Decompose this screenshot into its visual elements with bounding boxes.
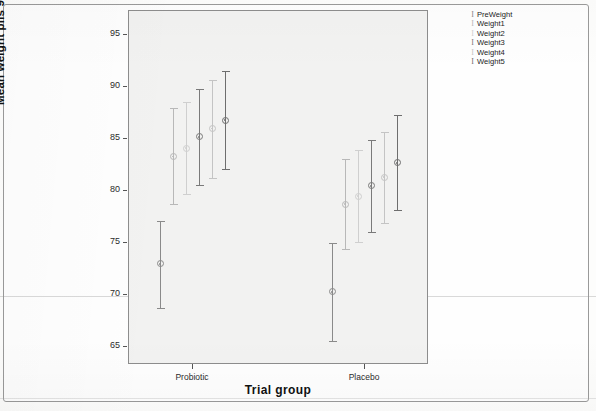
legend-error-bar-icon: I bbox=[468, 19, 477, 28]
legend-error-bar-icon: I bbox=[468, 48, 477, 57]
error-bar-cap-lower bbox=[157, 308, 165, 309]
data-point-centre-dot bbox=[224, 119, 226, 121]
error-bar-cap-lower bbox=[342, 249, 350, 250]
error-bar-cap-upper bbox=[222, 71, 230, 72]
x-axis-title: Trial group bbox=[128, 383, 428, 397]
legend-item-label: Weight1 bbox=[477, 19, 505, 28]
legend-error-bar-icon: I bbox=[468, 57, 477, 66]
legend-error-bar-icon: I bbox=[468, 29, 477, 38]
data-point-marker bbox=[355, 193, 362, 200]
y-tick-mark bbox=[123, 190, 127, 191]
x-tick-label: Placebo bbox=[319, 372, 409, 382]
data-point-marker bbox=[157, 260, 164, 267]
legend: IPreWeightIWeight1IWeight2IWeight3IWeigh… bbox=[468, 10, 568, 66]
error-bar-cap-lower bbox=[355, 242, 363, 243]
data-point-centre-dot bbox=[331, 291, 333, 293]
error-bar-cap-upper bbox=[170, 108, 178, 109]
data-point-centre-dot bbox=[172, 156, 174, 158]
data-point-marker bbox=[394, 159, 401, 166]
y-tick-mark bbox=[123, 34, 127, 35]
error-bar-cap-upper bbox=[368, 140, 376, 141]
legend-item-weight4[interactable]: IWeight4 bbox=[468, 48, 568, 57]
data-point-marker bbox=[196, 133, 203, 140]
legend-error-bar-icon: I bbox=[468, 38, 477, 47]
data-point-centre-dot bbox=[198, 136, 200, 138]
legend-item-label: Weight3 bbox=[477, 38, 505, 47]
data-point-centre-dot bbox=[344, 203, 346, 205]
y-tick-label: 70 bbox=[94, 288, 120, 298]
legend-error-bar-icon: I bbox=[468, 10, 477, 19]
y-tick-mark bbox=[123, 86, 127, 87]
legend-item-label: Weight5 bbox=[477, 57, 505, 66]
data-point-centre-dot bbox=[211, 128, 213, 130]
y-tick-mark bbox=[123, 242, 127, 243]
y-tick-mark bbox=[123, 346, 127, 347]
data-point-marker bbox=[209, 125, 216, 132]
x-tick-mark bbox=[192, 364, 193, 369]
scan-artifact-line-lower bbox=[0, 398, 596, 399]
error-bar-cap-lower bbox=[381, 223, 389, 224]
data-point-marker bbox=[222, 117, 229, 124]
error-bar-cap-lower bbox=[209, 178, 217, 179]
legend-item-weight5[interactable]: IWeight5 bbox=[468, 57, 568, 66]
y-axis-title: Mean weight plis 95% CI bbox=[0, 0, 6, 105]
legend-item-weight2[interactable]: IWeight2 bbox=[468, 29, 568, 38]
data-point-centre-dot bbox=[185, 147, 187, 149]
y-tick-mark bbox=[123, 138, 127, 139]
error-bar-cap-upper bbox=[196, 89, 204, 90]
data-point-marker bbox=[183, 145, 190, 152]
error-bar-cap-upper bbox=[209, 80, 217, 81]
y-tick-label: 75 bbox=[94, 236, 120, 246]
y-tick-mark bbox=[123, 294, 127, 295]
error-bar-cap-upper bbox=[381, 132, 389, 133]
error-bar-cap-lower bbox=[329, 341, 337, 342]
data-point-centre-dot bbox=[383, 176, 385, 178]
legend-item-preweight[interactable]: IPreWeight bbox=[468, 10, 568, 19]
y-tick-label: 80 bbox=[94, 184, 120, 194]
data-point-centre-dot bbox=[370, 185, 372, 187]
data-point-marker bbox=[368, 182, 375, 189]
error-bar-cap-upper bbox=[157, 221, 165, 222]
y-tick-label: 85 bbox=[94, 132, 120, 142]
data-point-centre-dot bbox=[357, 195, 359, 197]
error-bar-cap-lower bbox=[368, 232, 376, 233]
error-bar-cap-upper bbox=[183, 102, 191, 103]
error-bar-cap-lower bbox=[196, 185, 204, 186]
x-tick-label: Probiotic bbox=[147, 372, 237, 382]
data-point-centre-dot bbox=[396, 162, 398, 164]
y-tick-label: 95 bbox=[94, 28, 120, 38]
legend-item-label: PreWeight bbox=[477, 10, 512, 19]
error-bar-cap-lower bbox=[222, 169, 230, 170]
data-point-marker bbox=[170, 153, 177, 160]
legend-item-weight1[interactable]: IWeight1 bbox=[468, 19, 568, 28]
error-bar-cap-upper bbox=[394, 115, 402, 116]
data-point-marker bbox=[342, 201, 349, 208]
legend-item-weight3[interactable]: IWeight3 bbox=[468, 38, 568, 47]
error-bar-cap-upper bbox=[329, 243, 337, 244]
error-bar-cap-upper bbox=[355, 150, 363, 151]
data-point-marker bbox=[329, 288, 336, 295]
y-tick-label: 90 bbox=[94, 80, 120, 90]
data-point-marker bbox=[381, 174, 388, 181]
error-bar-cap-lower bbox=[183, 194, 191, 195]
legend-item-label: Weight4 bbox=[477, 48, 505, 57]
legend-item-label: Weight2 bbox=[477, 29, 505, 38]
error-bar-cap-upper bbox=[342, 159, 350, 160]
x-tick-mark bbox=[364, 364, 365, 369]
error-bar-cap-lower bbox=[170, 204, 178, 205]
error-bar-cap-lower bbox=[394, 210, 402, 211]
y-tick-label: 65 bbox=[94, 340, 120, 350]
data-point-centre-dot bbox=[159, 263, 161, 265]
